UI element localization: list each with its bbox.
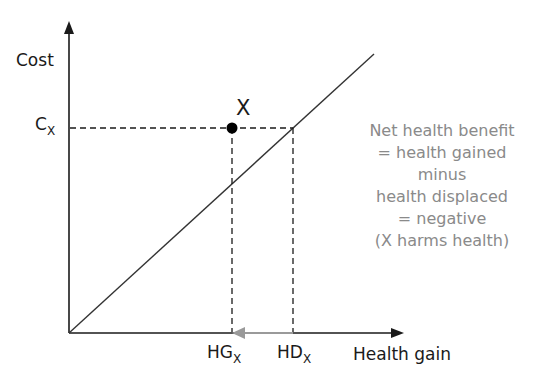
displacement-arrowhead-icon: [232, 327, 245, 339]
x-axis-label: Health gain: [353, 344, 451, 364]
hd-marker-main: HD: [277, 342, 303, 362]
point-x-dot: [227, 123, 238, 134]
cost-marker-sub: X: [47, 124, 55, 138]
hg-marker-main: HG: [207, 342, 233, 362]
y-axis-label: Cost: [16, 50, 54, 70]
hg-marker-label: HGX: [207, 342, 241, 362]
threshold-line: [69, 54, 374, 333]
x-axis-arrowhead-icon: [391, 328, 404, 338]
note-line: Net health benefit: [352, 120, 532, 142]
note-line: health displaced: [352, 186, 532, 208]
point-x-label: X: [236, 96, 250, 120]
note-line: minus: [352, 164, 532, 186]
cost-marker-label: CX: [35, 114, 55, 134]
note-line: = health gained: [352, 142, 532, 164]
hd-marker-sub: X: [303, 352, 311, 366]
hg-marker-sub: X: [233, 352, 241, 366]
note-line: (X harms health): [352, 230, 532, 252]
cost-marker-main: C: [35, 114, 47, 134]
note-line: = negative: [352, 208, 532, 230]
hd-marker-label: HDX: [277, 342, 311, 362]
y-axis-arrowhead-icon: [64, 21, 74, 34]
net-health-benefit-note: Net health benefit = health gained minus…: [352, 120, 532, 252]
